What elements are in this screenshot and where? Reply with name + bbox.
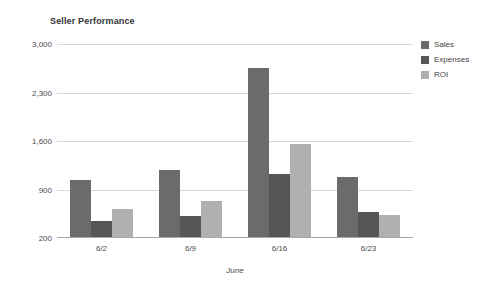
- bar-roi[interactable]: [112, 209, 133, 238]
- legend-swatch-icon: [421, 71, 429, 79]
- chart-container: Seller Performance 2009001,6002,3003,000…: [0, 0, 498, 294]
- bar-sales[interactable]: [248, 68, 269, 238]
- legend-label: Expenses: [434, 55, 469, 64]
- bar-expenses[interactable]: [91, 221, 112, 238]
- plot-area: [57, 44, 413, 238]
- bar-sales[interactable]: [70, 180, 91, 238]
- bar-expenses[interactable]: [358, 212, 379, 238]
- x-axis-line: [57, 237, 413, 238]
- x-tick-label: 6/2: [96, 244, 107, 253]
- legend-item-roi[interactable]: ROI: [421, 70, 469, 79]
- bar-roi[interactable]: [379, 215, 400, 238]
- chart-legend: SalesExpensesROI: [421, 40, 469, 79]
- bar-group: [159, 44, 222, 238]
- legend-swatch-icon: [421, 41, 429, 49]
- bar-roi[interactable]: [201, 201, 222, 238]
- y-tick-label: 200: [39, 234, 52, 243]
- x-tick-label: 6/9: [185, 244, 196, 253]
- x-tick-label: 6/23: [361, 244, 377, 253]
- y-axis-labels: 2009001,6002,3003,000: [14, 44, 52, 238]
- y-tick-label: 3,000: [32, 40, 52, 49]
- y-tick-label: 1,600: [32, 137, 52, 146]
- bar-expenses[interactable]: [269, 174, 290, 238]
- legend-item-expenses[interactable]: Expenses: [421, 55, 469, 64]
- bar-roi[interactable]: [290, 144, 311, 238]
- bar-sales[interactable]: [159, 170, 180, 238]
- x-tick-label: 6/16: [272, 244, 288, 253]
- bar-sales[interactable]: [337, 177, 358, 238]
- bar-group: [70, 44, 133, 238]
- legend-swatch-icon: [421, 56, 429, 64]
- bar-expenses[interactable]: [180, 216, 201, 238]
- bar-group: [248, 44, 311, 238]
- chart-title: Seller Performance: [50, 16, 135, 26]
- legend-item-sales[interactable]: Sales: [421, 40, 469, 49]
- legend-label: ROI: [434, 70, 448, 79]
- y-tick-label: 900: [39, 185, 52, 194]
- legend-label: Sales: [434, 40, 454, 49]
- bar-group: [337, 44, 400, 238]
- y-tick-label: 2,300: [32, 88, 52, 97]
- x-axis-title: June: [57, 266, 413, 275]
